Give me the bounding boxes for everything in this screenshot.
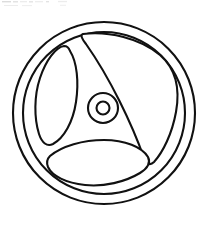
hub-inner-circle [97, 102, 110, 115]
drawing-canvas: Black outline line-art illustration of a… [0, 0, 208, 226]
wheel-illustration [0, 0, 208, 226]
